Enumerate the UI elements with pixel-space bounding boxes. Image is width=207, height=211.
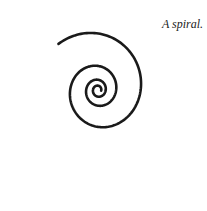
caption: A spiral. [162,17,203,32]
spiral-curve [58,33,141,127]
